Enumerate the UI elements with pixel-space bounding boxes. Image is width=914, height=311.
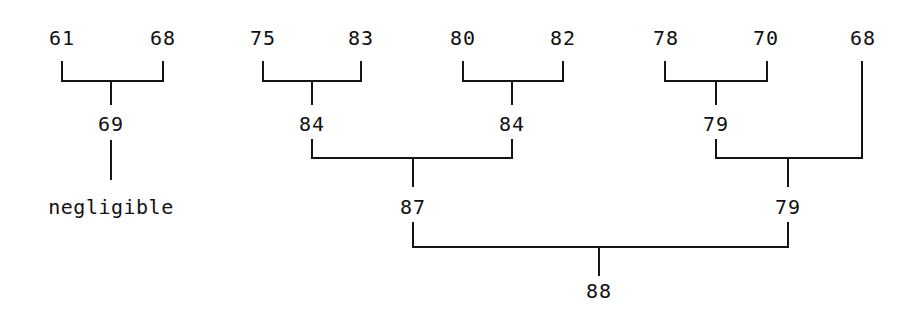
connector-merge-69-bar bbox=[61, 80, 164, 82]
connector-69-to-negligible bbox=[110, 140, 112, 180]
connector-leaf-68-left-drop bbox=[162, 61, 164, 81]
connector-merge-88-bar bbox=[412, 246, 789, 248]
leaf-node-82: 82 bbox=[550, 28, 576, 48]
internal-node-84-left: 84 bbox=[299, 114, 325, 134]
leaf-node-61: 61 bbox=[49, 28, 75, 48]
dendrogram-figure: 61 68 75 83 80 82 78 70 68 69 negligible… bbox=[0, 0, 914, 311]
leaf-node-68-right: 68 bbox=[850, 28, 876, 48]
connector-leaf-61-drop bbox=[61, 61, 63, 81]
connector-84b-drop bbox=[511, 139, 513, 159]
internal-node-69: 69 bbox=[98, 114, 124, 134]
connector-merge-79b-bar bbox=[715, 157, 863, 159]
connector-merge-69-stem bbox=[110, 80, 112, 105]
connector-merge-84b-stem bbox=[511, 80, 513, 105]
terminal-node-negligible: negligible bbox=[48, 197, 173, 217]
connector-merge-84b-bar bbox=[462, 80, 564, 82]
connector-79a-drop bbox=[715, 139, 717, 159]
connector-merge-79b-stem bbox=[787, 157, 789, 187]
root-node-88: 88 bbox=[586, 281, 612, 301]
connector-merge-87-stem bbox=[412, 157, 414, 187]
connector-87-drop bbox=[412, 222, 414, 248]
connector-merge-88-stem bbox=[598, 246, 600, 276]
connector-merge-84a-stem bbox=[311, 80, 313, 105]
leaf-node-80: 80 bbox=[450, 28, 476, 48]
connector-leaf-82-drop bbox=[562, 61, 564, 81]
connector-leaf-83-drop bbox=[360, 61, 362, 81]
leaf-node-70: 70 bbox=[753, 28, 779, 48]
leaf-node-83: 83 bbox=[348, 28, 374, 48]
leaf-node-68-left: 68 bbox=[150, 28, 176, 48]
connector-79b-drop bbox=[787, 222, 789, 248]
leaf-node-75: 75 bbox=[250, 28, 276, 48]
connector-leaf-75-drop bbox=[262, 61, 264, 81]
connector-merge-79a-stem bbox=[715, 80, 717, 105]
connector-leaf-80-drop bbox=[462, 61, 464, 81]
internal-node-79-upper: 79 bbox=[703, 114, 729, 134]
connector-leaf-68-right-long-drop bbox=[861, 61, 863, 159]
connector-leaf-70-drop bbox=[766, 61, 768, 81]
leaf-node-78: 78 bbox=[653, 28, 679, 48]
internal-node-87: 87 bbox=[400, 197, 426, 217]
connector-leaf-78-drop bbox=[664, 61, 666, 81]
internal-node-79-lower: 79 bbox=[775, 197, 801, 217]
connector-84a-drop bbox=[311, 139, 313, 159]
internal-node-84-right: 84 bbox=[499, 114, 525, 134]
